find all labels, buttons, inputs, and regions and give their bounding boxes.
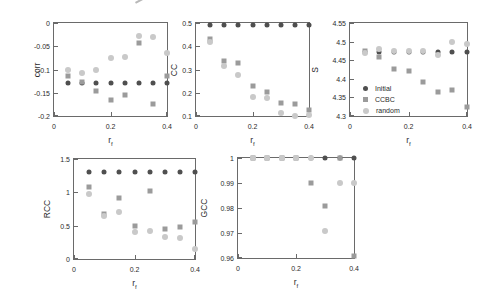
legend-marker-random	[363, 108, 369, 114]
marker-initial	[147, 170, 152, 175]
gcc-plot: 10.990.980.970.9600.20.4GCCrf	[237, 157, 355, 259]
s-x-axis-label: rf	[406, 135, 411, 147]
y-tick	[196, 93, 200, 94]
marker-random	[391, 48, 397, 54]
rcc-x-axis-label: rf	[132, 278, 137, 290]
marker-ccbc	[87, 185, 92, 190]
corr-y-axis-label: corr	[32, 62, 42, 77]
marker-random	[150, 34, 156, 40]
legend-marker-ccbc	[363, 97, 368, 102]
y-tick	[74, 159, 78, 160]
marker-initial	[165, 80, 170, 85]
marker-initial	[94, 80, 99, 85]
marker-random	[351, 180, 357, 186]
y-tick	[54, 46, 58, 47]
marker-initial	[352, 156, 357, 161]
legend-label: random	[376, 105, 400, 116]
x-tick-label: 0	[182, 122, 210, 131]
y-tick-label: 0.1	[156, 112, 192, 121]
marker-random	[308, 155, 314, 161]
marker-initial	[66, 80, 71, 85]
x-tick-label: 0.2	[239, 122, 267, 131]
x-tick-label: 0	[40, 122, 68, 131]
marker-random	[337, 180, 343, 186]
marker-ccbc	[136, 40, 141, 45]
marker-initial	[117, 170, 122, 175]
marker-initial	[292, 22, 297, 27]
y-tick	[54, 23, 58, 24]
x-tick-label: 0.2	[121, 265, 149, 274]
marker-random	[93, 67, 99, 73]
marker-random	[116, 209, 122, 215]
marker-random	[250, 155, 256, 161]
marker-ccbc	[108, 97, 113, 102]
marker-ccbc	[450, 87, 455, 92]
y-tick	[196, 23, 200, 24]
x-tick	[296, 254, 297, 258]
y-tick	[350, 60, 354, 61]
marker-ccbc	[117, 196, 122, 201]
figure-canvas: 0-0.05-0.1-0.15-0.200.20.4corrrf 0.50.40…	[0, 0, 484, 300]
x-tick-label: 0	[60, 265, 88, 274]
legend-label: CCBC	[375, 94, 395, 105]
x-tick-label: 0.4	[181, 265, 209, 274]
corr-plot-area: 0-0.05-0.1-0.15-0.200.20.4corrrf	[54, 23, 167, 116]
marker-ccbc	[391, 67, 396, 72]
marker-ccbc	[435, 90, 440, 95]
marker-random	[101, 213, 107, 219]
x-tick	[194, 255, 195, 259]
rcc-plot: 1.510.5000.20.4RCCrf	[73, 158, 196, 260]
y-tick	[196, 70, 200, 71]
marker-random	[278, 110, 284, 116]
marker-ccbc	[66, 74, 71, 79]
legend-marker-initial	[363, 86, 368, 91]
marker-random	[164, 50, 170, 56]
marker-random	[192, 246, 198, 252]
rcc-plot-area: 1.510.5000.20.4RCCrf	[74, 159, 195, 259]
y-tick-label: 0	[34, 255, 70, 264]
s-plot-area: 4.554.54.454.44.354.300.20.4SrfInitialCC…	[350, 23, 467, 116]
corr-plot: 0-0.05-0.1-0.15-0.200.20.4corrrf	[53, 22, 168, 117]
marker-random	[235, 72, 241, 78]
marker-ccbc	[377, 55, 382, 60]
y-tick	[74, 226, 78, 227]
x-tick-label: 0.4	[453, 122, 481, 131]
marker-ccbc	[80, 80, 85, 85]
marker-initial	[177, 170, 182, 175]
marker-ccbc	[147, 189, 152, 194]
marker-initial	[236, 22, 241, 27]
marker-random	[136, 33, 142, 39]
legend-row: random	[363, 105, 400, 116]
x-tick	[54, 112, 55, 116]
y-tick-label: 0.4	[156, 42, 192, 51]
marker-ccbc	[177, 225, 182, 230]
y-tick-label: 4.35	[310, 93, 346, 102]
marker-initial	[450, 49, 455, 54]
y-tick-label: 0.97	[198, 229, 234, 238]
y-tick-label: 1	[198, 154, 234, 163]
marker-ccbc	[352, 253, 357, 258]
y-tick	[350, 79, 354, 80]
y-tick-label: -0.15	[14, 89, 50, 98]
marker-ccbc	[292, 102, 297, 107]
marker-random	[250, 94, 256, 100]
y-tick	[238, 158, 242, 159]
y-tick-label: 1.5	[34, 155, 70, 164]
marker-initial	[250, 22, 255, 27]
x-tick-label: 0.2	[282, 264, 310, 273]
marker-random	[464, 41, 470, 47]
y-tick-label: 4.45	[310, 56, 346, 65]
marker-random	[132, 229, 138, 235]
cc-x-axis-label: rf	[250, 135, 255, 147]
y-tick-label: 0.5	[34, 222, 70, 231]
cropped-text-artifact	[135, 0, 143, 4]
x-tick	[350, 112, 351, 116]
marker-random	[420, 48, 426, 54]
x-tick	[253, 112, 254, 116]
marker-random	[292, 113, 298, 119]
marker-ccbc	[162, 227, 167, 232]
marker-initial	[278, 22, 283, 27]
x-tick-label: 0.4	[340, 264, 368, 273]
y-tick-label: 4.55	[310, 19, 346, 28]
y-tick-label: 0.96	[198, 254, 234, 263]
